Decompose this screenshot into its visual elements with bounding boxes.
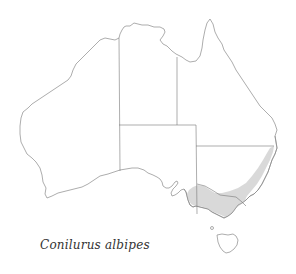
australia-distribution-map <box>0 0 296 274</box>
kangaroo-island-marker <box>211 227 214 230</box>
tasmania-outline <box>217 234 238 253</box>
species-caption: Conilurus albipes <box>40 238 150 252</box>
